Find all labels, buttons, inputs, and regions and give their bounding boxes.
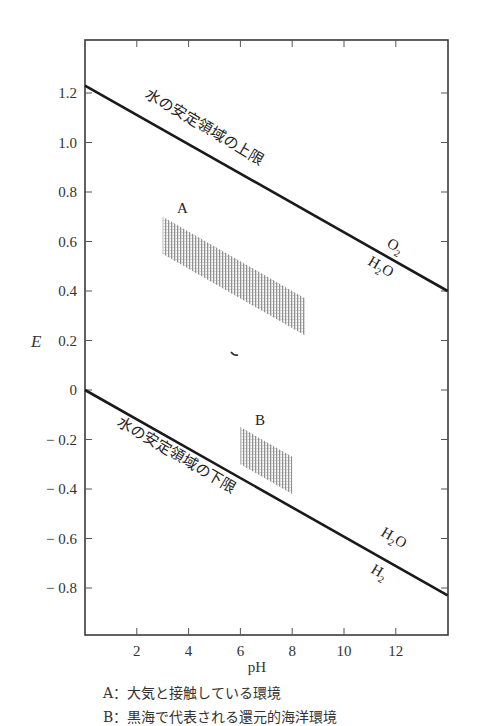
x-axis-title: pH — [248, 659, 267, 675]
upper-limit-line — [85, 86, 448, 291]
y-tick-label: 0 — [70, 382, 78, 398]
x-axis-ticks: 24681012 — [133, 40, 403, 659]
lower-limit-line — [85, 390, 448, 595]
caption-region-a: A：大気と接触している環境 — [103, 682, 281, 702]
species-h2-label: H2 — [367, 561, 390, 585]
x-tick-label: 6 — [237, 643, 245, 659]
y-tick-label: 0.6 — [58, 234, 77, 250]
stray-mark — [231, 352, 238, 355]
x-tick-label: 10 — [337, 643, 352, 659]
x-tick-label: 4 — [185, 643, 193, 659]
y-tick-label: − 0.4 — [46, 481, 77, 497]
x-tick-label: 2 — [133, 643, 141, 659]
x-tick-label: 12 — [388, 643, 403, 659]
y-tick-label: − 0.2 — [46, 432, 77, 448]
upper-line-label: 水の安定領域の上限 — [142, 85, 267, 169]
y-tick-label: 0.2 — [58, 333, 77, 349]
species-h2o-upper-label: H2O — [364, 253, 397, 283]
y-tick-label: 1.0 — [58, 135, 77, 151]
water-stability-lines — [85, 86, 448, 596]
region-a-label: A — [177, 200, 188, 216]
species-h2o-lower-label: H2O — [377, 524, 410, 554]
y-tick-label: − 0.8 — [46, 580, 77, 596]
region-b-label: B — [255, 412, 265, 428]
caption-region-b: B：黒海で代表される還元的海洋環境 — [103, 706, 337, 726]
y-axis-title: E — [30, 332, 42, 351]
x-tick-label: 8 — [288, 643, 296, 659]
y-tick-label: 0.4 — [58, 283, 77, 299]
lower-line-label: 水の安定領域の下限 — [114, 413, 239, 497]
y-tick-label: 0.8 — [58, 184, 77, 200]
y-tick-label: − 0.6 — [46, 531, 77, 547]
region-a — [163, 217, 305, 336]
y-tick-label: 1.2 — [58, 85, 77, 101]
